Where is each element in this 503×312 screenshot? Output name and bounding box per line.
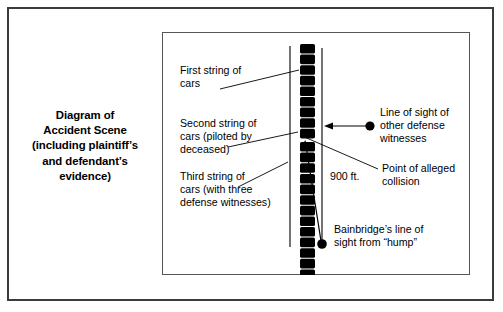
other-witnesses-sight-arrowhead bbox=[324, 123, 333, 130]
railcar bbox=[300, 206, 315, 216]
other-witnesses-label-line-1: Line of sight of bbox=[380, 106, 449, 118]
collision-point-label-line-1: Point of alleged bbox=[382, 162, 455, 174]
railcar bbox=[300, 269, 315, 275]
railcar bbox=[300, 97, 315, 107]
accident-scene-figure: Diagram of Accident Scene (including pla… bbox=[0, 0, 503, 312]
figure-caption: Diagram of Accident Scene (including pla… bbox=[14, 108, 156, 184]
second-string-label-line-2: cars (piloted by bbox=[180, 130, 253, 142]
second-string-label-line-3: deceased) bbox=[180, 143, 229, 155]
railcar bbox=[300, 86, 315, 96]
caption-line-5: evidence) bbox=[14, 169, 156, 184]
third-string-label: Third string of cars (with three defense… bbox=[180, 170, 271, 208]
other-witnesses-sight-line bbox=[324, 121, 375, 130]
railcar bbox=[300, 55, 315, 65]
railcar bbox=[300, 227, 315, 237]
railcar bbox=[300, 65, 315, 75]
caption-line-4: and defendant’s bbox=[14, 154, 156, 169]
caption-line-2: Accident Scene bbox=[14, 123, 156, 138]
railcar bbox=[300, 195, 315, 205]
railcar bbox=[300, 248, 315, 258]
railcar bbox=[300, 108, 315, 118]
collision-point-label-line-2: collision bbox=[382, 175, 420, 187]
first-string-label-line-1: First string of bbox=[180, 64, 241, 76]
first-string-label-line-2: cars bbox=[180, 77, 200, 89]
railcar bbox=[300, 76, 315, 86]
railcar bbox=[300, 259, 315, 269]
railcar bbox=[300, 216, 315, 226]
other-witnesses-label-line-2: other defense bbox=[380, 119, 445, 131]
bainbridge-label-line-2: sight from “hump” bbox=[334, 236, 417, 248]
other-witnesses-label: Line of sight of other defense witnesses bbox=[379, 106, 452, 144]
railcar bbox=[300, 129, 315, 139]
railcar bbox=[300, 238, 315, 248]
railcar bbox=[300, 44, 315, 54]
distance-label-line-1: 900 ft. bbox=[330, 170, 359, 182]
second-string-label-line-1: Second string of bbox=[180, 117, 257, 129]
third-string-label-line-2: cars (with three bbox=[180, 183, 253, 195]
distance-label: 900 ft. bbox=[330, 170, 359, 182]
bainbridge-label-line-1: Bainbridge’s line of bbox=[334, 223, 423, 235]
railcar bbox=[300, 163, 315, 173]
accident-scene-drawing: First string of cars Second string of ca… bbox=[162, 32, 470, 275]
collision-point-label: Point of alleged collision bbox=[382, 162, 458, 187]
caption-line-3: (including plaintiff’s bbox=[14, 138, 156, 153]
other-witnesses-eye-marker bbox=[365, 121, 374, 130]
first-string-of-cars bbox=[300, 44, 315, 138]
railcar bbox=[300, 118, 315, 128]
railcar bbox=[300, 174, 315, 184]
third-string-label-line-3: defense witnesses) bbox=[180, 196, 271, 208]
bainbridge-eye-marker bbox=[317, 239, 327, 249]
caption-line-1: Diagram of bbox=[14, 108, 156, 123]
bainbridge-label: Bainbridge’s line of sight from “hump” bbox=[334, 223, 426, 248]
other-witnesses-label-line-3: witnesses bbox=[379, 132, 427, 144]
third-string-label-line-1: Third string of bbox=[180, 170, 245, 182]
second-string-label: Second string of cars (piloted by deceas… bbox=[180, 117, 260, 155]
